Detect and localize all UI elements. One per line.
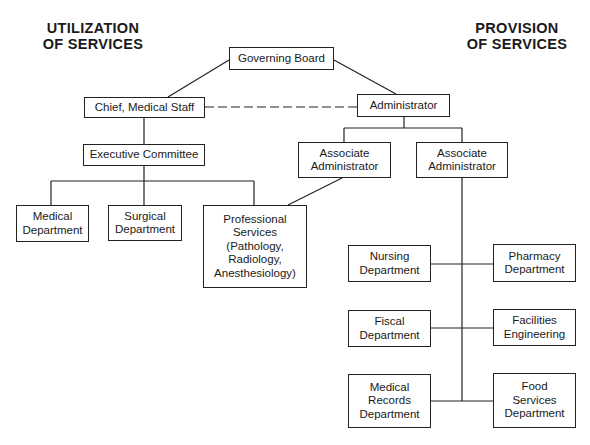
node-medical-department: Medical Department — [16, 205, 89, 242]
edge-board-admin — [334, 60, 396, 94]
node-facilities-engineering: Facilities Engineering — [493, 309, 576, 346]
heading-utilization-of-services: UTILIZATION OF SERVICES — [38, 20, 148, 52]
edge-assoc-profservices — [288, 178, 342, 205]
heading-provision-of-services: PROVISION OF SERVICES — [462, 20, 572, 52]
node-chief-medical-staff: Chief, Medical Staff — [84, 97, 205, 118]
node-executive-committee: Executive Committee — [83, 144, 205, 166]
node-administrator: Administrator — [357, 94, 450, 117]
node-nursing-department: Nursing Department — [348, 245, 431, 282]
node-governing-board: Governing Board — [229, 47, 334, 70]
node-pharmacy-department: Pharmacy Department — [493, 244, 576, 282]
node-professional-services: Professional Services (Pathology, Radiol… — [203, 205, 307, 288]
node-associate-administrator-left: Associate Administrator — [298, 142, 391, 178]
node-surgical-department: Surgical Department — [108, 205, 182, 241]
node-associate-administrator-right: Associate Administrator — [416, 142, 508, 178]
node-medical-records-department: Medical Records Department — [348, 374, 431, 428]
edge-board-chief — [168, 60, 229, 97]
node-food-services-department: Food Services Department — [493, 373, 576, 428]
node-fiscal-department: Fiscal Department — [348, 310, 431, 347]
